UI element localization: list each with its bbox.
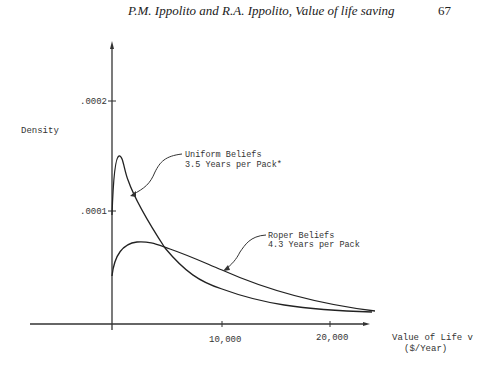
x-tick-label: 10,000	[209, 335, 241, 345]
uniform-label-line1: Uniform Beliefs	[185, 150, 262, 160]
roper-annotation-leader	[225, 235, 266, 270]
uniform-annotation-leader	[132, 154, 182, 195]
x-axis-label: Value of Life v	[392, 333, 474, 343]
x-tick-label: 20,000	[316, 333, 348, 343]
y-axis-label: Density	[21, 126, 59, 136]
y-tick-label: .0001	[80, 207, 107, 217]
roper-beliefs-curve	[112, 242, 375, 311]
roper-label-line2: 4.3 Years per Pack	[268, 240, 360, 250]
density-chart: .0002 .0001 10,000 20,000 Density Value …	[0, 0, 483, 377]
y-tick-label: .0002	[80, 97, 107, 107]
x-axis-arrow-icon	[363, 322, 370, 326]
uniform-label-line2: 3.5 Years per Pack*	[185, 160, 282, 170]
y-axis-arrow-icon	[110, 41, 114, 49]
x-axis-units: ($/Year)	[404, 344, 447, 354]
